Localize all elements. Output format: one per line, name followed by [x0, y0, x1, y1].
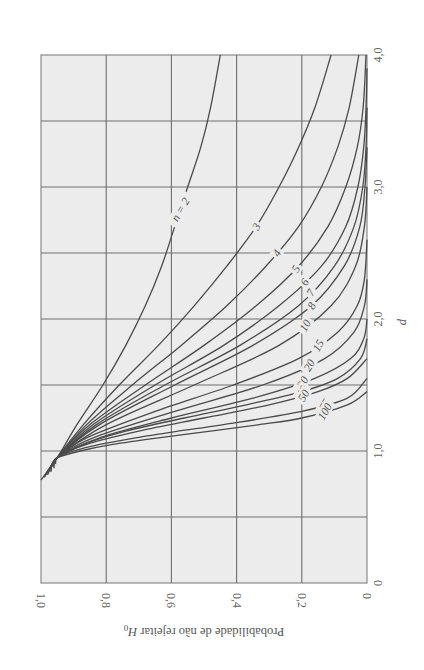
y-tick-label: 0,8 — [99, 593, 113, 608]
x-axis-tick-labels: 01,02,03,04,0 — [371, 48, 385, 587]
y-axis-tick-labels: 00,20,40,60,81,0 — [34, 593, 374, 608]
y-tick-label: 0 — [360, 593, 374, 599]
oc-curve-chart: n = 234567810152030405075100 00,20,40,60… — [0, 0, 424, 670]
x-tick-label: 4,0 — [371, 48, 385, 63]
y-tick-label: 1,0 — [34, 593, 48, 608]
y-axis-title-text: Probabilidade de não rejeitar — [137, 625, 284, 639]
x-tick-label: 2,0 — [371, 312, 385, 327]
x-axis-title: d — [395, 318, 409, 325]
y-axis-title: Probabilidade de não rejeitar H0 — [123, 623, 284, 639]
x-tick-label: 0 — [371, 580, 385, 586]
y-axis-title-subscript: 0 — [123, 623, 128, 633]
x-tick-label: 3,0 — [371, 180, 385, 195]
y-tick-label: 0,2 — [295, 593, 309, 608]
x-tick-label: 1,0 — [371, 444, 385, 459]
y-tick-label: 0,6 — [164, 593, 178, 608]
y-tick-label: 0,4 — [230, 593, 244, 608]
